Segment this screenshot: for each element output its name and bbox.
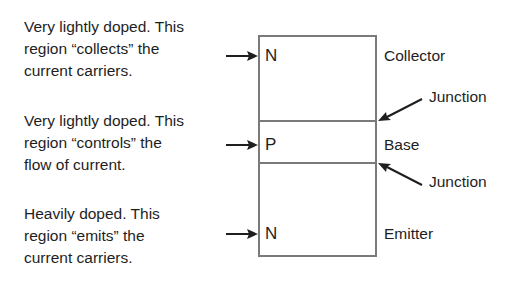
base-emitter-divider [258,162,377,164]
collector-label: Collector [384,47,445,65]
collector-base-divider [258,120,377,122]
emitter-description: Heavily doped. This region “emits” the c… [24,203,160,269]
description-line: region “controls” the [24,132,184,154]
emitter-label: Emitter [384,225,433,243]
junction-arrow-icon [378,98,423,122]
base-label: Base [384,136,419,154]
description-line: region “collects” the [24,38,184,60]
base-letter: P [265,135,276,155]
description-line: current carriers. [24,60,184,82]
collector-letter: N [265,46,277,66]
arrow-right-icon [226,50,258,62]
junction-label-top: Junction [429,88,487,106]
arrow-right-icon [226,228,258,240]
collector-description: Very lightly doped. This region “collect… [24,16,184,82]
description-line: flow of current. [24,154,184,176]
description-line: Very lightly doped. This [24,16,184,38]
description-line: Very lightly doped. This [24,110,184,132]
description-line: region “emits” the [24,225,160,247]
description-line: current carriers. [24,247,160,269]
arrow-right-icon [226,139,258,151]
junction-arrow-icon [378,163,423,187]
description-line: Heavily doped. This [24,203,160,225]
junction-label-bottom: Junction [429,173,487,191]
emitter-letter: N [265,224,277,244]
base-description: Very lightly doped. This region “control… [24,110,184,176]
